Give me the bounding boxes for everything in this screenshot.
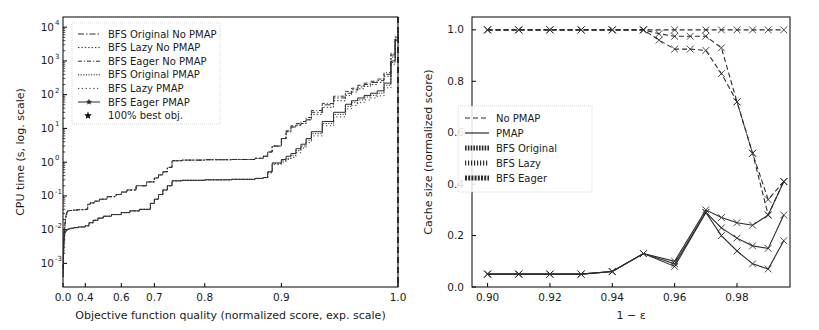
x-tick-label-right: 0.90 xyxy=(476,291,499,303)
x-tick-label-left: 0.9 xyxy=(273,291,290,303)
data-point-marker xyxy=(718,214,725,221)
data-point-marker xyxy=(749,150,756,157)
data-point-marker xyxy=(734,248,741,255)
data-point-marker xyxy=(734,98,741,105)
legend-label-left-1: BFS Lazy No PMAP xyxy=(108,42,200,53)
data-point-marker xyxy=(780,212,787,219)
y-tick-exponent-left: -1 xyxy=(55,188,62,196)
y-tick-label-right: 1.0 xyxy=(447,23,464,35)
data-point-marker xyxy=(780,237,787,244)
data-point-marker xyxy=(718,224,725,231)
y-tick-label-left: 10 xyxy=(41,156,54,168)
data-point-marker xyxy=(656,37,663,44)
data-point-marker xyxy=(765,212,772,219)
legend-label-right-4: BFS Eager xyxy=(496,173,548,184)
x-axis-label-left: Objective function quality (normalized s… xyxy=(75,309,385,322)
y-tick-label-right: 0.2 xyxy=(447,229,464,241)
right-plot-svg: 0.00.20.40.60.81.00.900.920.940.960.981 … xyxy=(410,0,819,330)
chart-panel-right: 0.00.20.40.60.81.00.900.920.940.960.981 … xyxy=(410,0,819,330)
legend-label-right-0: No PMAP xyxy=(496,113,540,124)
data-point-marker xyxy=(718,232,725,239)
data-point-marker xyxy=(640,250,647,257)
x-tick-label-right: 0.96 xyxy=(663,291,687,303)
series-line-right-4 xyxy=(488,212,784,274)
y-tick-label-left: 10 xyxy=(41,21,54,33)
legend-label-left-0: BFS Original No PMAP xyxy=(108,29,217,40)
series-line-right-5 xyxy=(488,212,784,274)
data-point-marker xyxy=(749,260,756,267)
x-tick-label-right: 0.94 xyxy=(601,291,625,303)
x-tick-label-right: 0.98 xyxy=(725,291,748,303)
data-point-marker xyxy=(780,26,787,33)
x-tick-label-left: 0.6 xyxy=(113,291,130,303)
x-tick-label-left: 0.0 xyxy=(55,291,72,303)
legend-label-right-2: BFS Original xyxy=(496,143,557,154)
y-tick-exponent-left: 3 xyxy=(55,53,59,61)
y-axis-label-right: Cache size (normalized score) xyxy=(422,69,435,234)
y-tick-exponent-left: 4 xyxy=(55,19,60,27)
x-tick-label-left: 1.0 xyxy=(390,291,407,303)
data-point-marker xyxy=(765,196,772,203)
x-tick-label-left: 0.7 xyxy=(146,291,163,303)
figure-root: 10-310-210-11001011021031040.00.40.60.70… xyxy=(0,0,819,330)
y-tick-exponent-left: 0 xyxy=(55,154,59,162)
data-point-marker xyxy=(656,30,663,37)
legend-label-left-3: BFS Original PMAP xyxy=(108,69,200,80)
x-tick-label-left: 0.8 xyxy=(196,291,213,303)
chart-panel-left: 10-310-210-11001011021031040.00.40.60.70… xyxy=(0,0,410,330)
legend-label-left-5: BFS Eager PMAP xyxy=(108,97,190,108)
y-tick-label-left: 10 xyxy=(41,189,54,201)
legend-label-right-1: PMAP xyxy=(496,128,524,139)
series-line-right-3 xyxy=(488,182,784,275)
legend-label-left-6: 100% best obj. xyxy=(108,110,183,121)
y-tick-label-left: 10 xyxy=(41,257,54,269)
data-point-marker xyxy=(734,235,741,242)
legend-label-left-4: BFS Lazy PMAP xyxy=(108,83,184,94)
y-tick-label-left: 10 xyxy=(41,54,54,66)
y-tick-exponent-left: -2 xyxy=(55,222,62,230)
legend-label-right-3: BFS Lazy xyxy=(496,158,541,169)
y-tick-label-left: 10 xyxy=(41,223,54,235)
y-tick-label-right: 0.8 xyxy=(447,75,464,87)
data-point-marker xyxy=(780,178,787,185)
data-point-marker xyxy=(718,70,725,77)
y-axis-label-left: CPU time (s, log. scale) xyxy=(14,88,27,216)
y-tick-exponent-left: 1 xyxy=(55,120,59,128)
y-tick-exponent-left: -3 xyxy=(55,255,62,263)
data-point-marker xyxy=(765,266,772,273)
left-plot-svg: 10-310-210-11001011021031040.00.40.60.70… xyxy=(0,0,410,330)
y-tick-label-left: 10 xyxy=(41,122,54,134)
x-tick-label-left: 0.4 xyxy=(77,291,94,303)
y-tick-label-right: 0.0 xyxy=(447,281,464,293)
y-tick-exponent-left: 2 xyxy=(55,87,59,95)
y-tick-label-left: 10 xyxy=(41,88,54,100)
legend-label-left-2: BFS Eager No PMAP xyxy=(108,56,207,67)
data-point-marker xyxy=(702,47,709,54)
x-axis-label-right: 1 − ε xyxy=(616,309,645,322)
x-tick-label-right: 0.92 xyxy=(538,291,561,303)
data-point-marker xyxy=(718,44,725,51)
